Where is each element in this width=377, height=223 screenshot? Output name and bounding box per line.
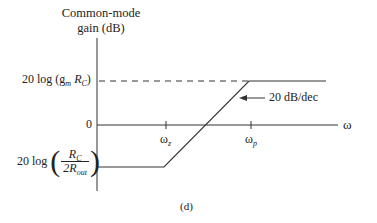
upper-level-label: 20 log (gm RC) — [22, 73, 91, 86]
tick-label-omega-p: ωp — [245, 133, 257, 146]
tick-label-omega-z: ωz — [160, 133, 171, 146]
y-axis-label-line2: gain (dB) — [56, 21, 146, 36]
slope-annotation: 20 dB/dec — [269, 91, 318, 104]
x-axis-label: ω — [343, 118, 352, 131]
zero-label: 0 — [86, 118, 92, 131]
lower-level-fraction: RC 2Rout — [61, 148, 89, 175]
y-axis-label: Common-mode gain (dB) — [56, 6, 146, 36]
figure-caption: (d) — [180, 200, 193, 213]
lower-level-label: 20 log ( RC 2Rout ) — [17, 146, 100, 176]
slope-arrow-head — [239, 95, 247, 101]
y-axis-label-line1: Common-mode — [56, 6, 146, 21]
